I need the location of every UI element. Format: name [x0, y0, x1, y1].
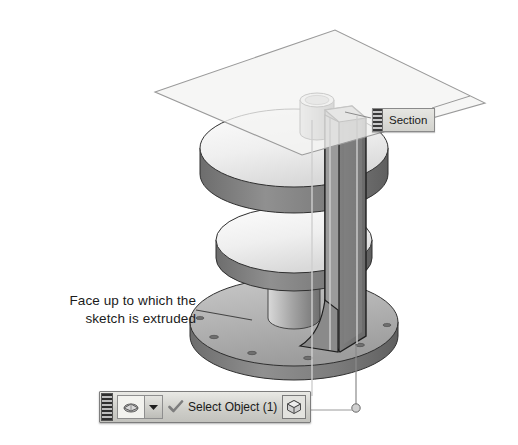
select-object-toolbar[interactable]: Select Object (1) — [99, 391, 311, 423]
cad-viewport: Face up to which the sketch is extruded … — [0, 0, 518, 445]
cube-glyph — [286, 399, 302, 415]
annotation-line-2: sketch is extruded — [16, 310, 196, 328]
model-graphic — [0, 0, 518, 445]
face-annotation: Face up to which the sketch is extruded — [16, 292, 196, 328]
check-icon[interactable] — [165, 395, 187, 419]
solid-body-glyph — [122, 399, 140, 415]
section-plane-label[interactable]: Section — [372, 108, 435, 132]
chevron-down-glyph — [148, 403, 159, 411]
drag-grip-icon[interactable] — [101, 393, 113, 421]
solid-body-filter-icon[interactable] — [117, 395, 144, 419]
chevron-down-icon[interactable] — [144, 395, 163, 419]
section-label-text: Section — [383, 109, 434, 131]
selection-status-text: Select Object (1) — [187, 392, 282, 422]
cube-icon[interactable] — [282, 395, 306, 419]
check-glyph — [168, 400, 184, 414]
annotation-line-1: Face up to which the — [69, 293, 196, 308]
drag-grip-icon[interactable] — [373, 109, 383, 131]
